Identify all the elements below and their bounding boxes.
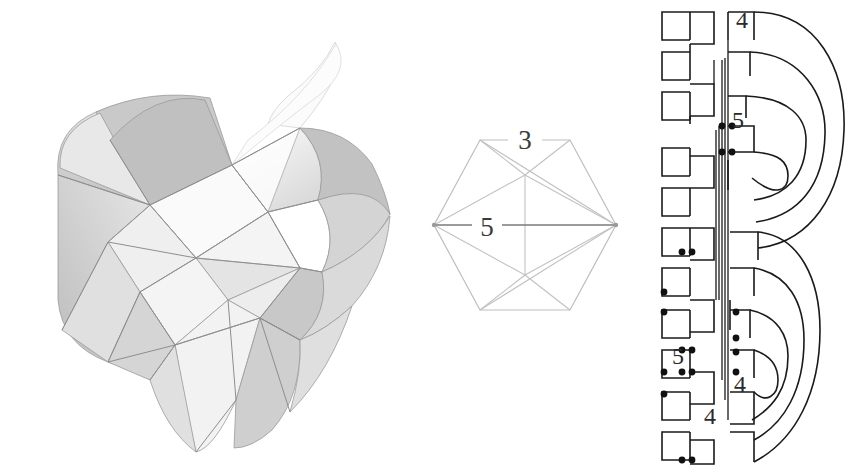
panel-polyhedron	[0, 0, 420, 474]
central-spine	[714, 40, 728, 420]
panel-gluing-diagram: 4 5 5 4 4	[650, 0, 851, 474]
label-middle-5: 5	[480, 212, 494, 242]
gluing-labels: 4 5 5 4 4	[672, 7, 748, 429]
polyhedron-svg	[0, 0, 420, 474]
figure-root: 3 5	[0, 0, 851, 474]
label-upper-4: 4	[736, 7, 748, 33]
gluing-svg: 4 5 5 4 4	[650, 0, 851, 474]
label-lower-4-inner: 4	[734, 371, 746, 397]
arcs-lower	[750, 232, 820, 462]
arcs-upper	[746, 12, 844, 248]
label-top-3: 3	[518, 125, 532, 155]
polyhedron-body	[58, 42, 390, 452]
label-lower-4-outer: 4	[704, 403, 716, 429]
panel-hexagon-diagram: 3 5	[408, 0, 648, 474]
hexagon-svg: 3 5	[408, 0, 648, 474]
label-lower-5: 5	[672, 343, 684, 369]
label-upper-5: 5	[732, 107, 744, 133]
comb-mid-teeth	[690, 12, 714, 464]
